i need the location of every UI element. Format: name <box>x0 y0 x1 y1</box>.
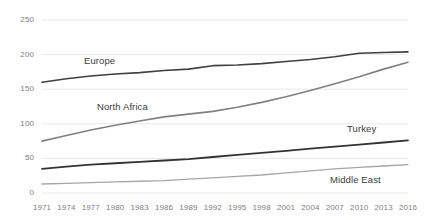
series-label-middle-east: Middle East <box>330 174 381 185</box>
x-axis-tick-label: 2001 <box>273 203 299 212</box>
x-axis-tick-label: 1989 <box>175 203 201 212</box>
x-axis-tick-label: 1998 <box>249 203 275 212</box>
x-axis-tick-label: 2007 <box>322 203 348 212</box>
x-axis-tick-label: 1983 <box>127 203 153 212</box>
y-axis-tick-label: 0 <box>8 188 34 197</box>
series-label-turkey: Turkey <box>347 123 376 134</box>
series-label-europe: Europe <box>84 55 115 66</box>
series-lines <box>42 52 408 184</box>
y-axis-tick-label: 250 <box>8 15 34 24</box>
x-axis-tick-label: 1974 <box>53 203 79 212</box>
series-line-turkey <box>42 140 408 168</box>
x-axis-tick-label: 1992 <box>200 203 226 212</box>
series-label-north-africa: North Africa <box>97 101 148 112</box>
x-axis-tick-label: 1995 <box>224 203 250 212</box>
x-axis-tick-label: 2016 <box>395 203 421 212</box>
x-axis-tick-label: 2013 <box>371 203 397 212</box>
y-axis-tick-label: 200 <box>8 50 34 59</box>
x-axis-tick-label: 2004 <box>297 203 323 212</box>
x-axis-tick-label: 1980 <box>102 203 128 212</box>
x-axis-tick-label: 2010 <box>346 203 372 212</box>
y-axis-tick-label: 50 <box>8 153 34 162</box>
chart-plot-area <box>0 0 424 220</box>
x-axis-tick-label: 1986 <box>151 203 177 212</box>
x-axis-tick-label: 1971 <box>29 203 55 212</box>
line-chart: 050100150200250 197119741977198019831986… <box>0 0 424 220</box>
y-axis-tick-label: 100 <box>8 119 34 128</box>
y-axis-tick-label: 150 <box>8 84 34 93</box>
x-axis-tick-label: 1977 <box>78 203 104 212</box>
